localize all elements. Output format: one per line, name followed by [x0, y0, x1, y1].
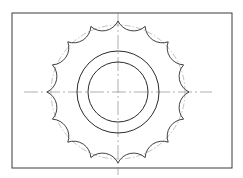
- drawing-frame: [12, 13, 232, 168]
- sprocket-drawing: [0, 0, 243, 178]
